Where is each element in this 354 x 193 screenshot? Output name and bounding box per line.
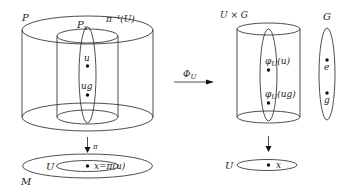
label-Phi-U: ΦU	[183, 69, 197, 81]
label-phi-u: φU(u)	[265, 56, 291, 68]
point-ug	[86, 93, 89, 96]
label-G: G	[323, 11, 331, 22]
projection-arrow-right	[266, 136, 272, 152]
group-G-ellipse	[319, 28, 335, 120]
local-trivialization-arrow: ΦU	[174, 69, 214, 85]
outer-cylinder-pi-inverse-U	[22, 16, 153, 131]
projection-arrow-pi: π	[85, 137, 99, 153]
fibre-ellipse-right	[260, 29, 277, 121]
principal-bundle-diagram: P π⁻¹(U) Px u ug π U x=π(u) M ΦU U × G φ…	[0, 0, 354, 193]
label-u: u	[84, 53, 90, 63]
point-phi-u	[267, 68, 270, 71]
svg-text:π: π	[92, 143, 98, 151]
point-u	[86, 64, 89, 67]
label-M: M	[20, 176, 32, 187]
label-pi-inverse-U: π⁻¹(U)	[105, 14, 135, 24]
label-Px: Px	[76, 19, 88, 32]
label-g: g	[324, 95, 330, 105]
label-x-equals-pi-u: x=π(u)	[94, 161, 126, 171]
label-ug: ug	[81, 81, 93, 91]
label-U-right: U	[225, 160, 234, 171]
product-cylinder-UxG	[237, 23, 300, 123]
label-x-right: x	[276, 160, 281, 170]
point-phi-ug	[267, 101, 270, 104]
point-x-left	[86, 164, 89, 167]
label-U-left: U	[46, 161, 55, 172]
point-x-right	[267, 163, 270, 166]
label-e: e	[324, 62, 329, 72]
label-U-times-G: U × G	[220, 10, 248, 20]
label-P: P	[21, 12, 29, 23]
fibre-ellipse-Px	[79, 27, 96, 123]
label-phi-ug: φU(ug)	[265, 89, 296, 101]
